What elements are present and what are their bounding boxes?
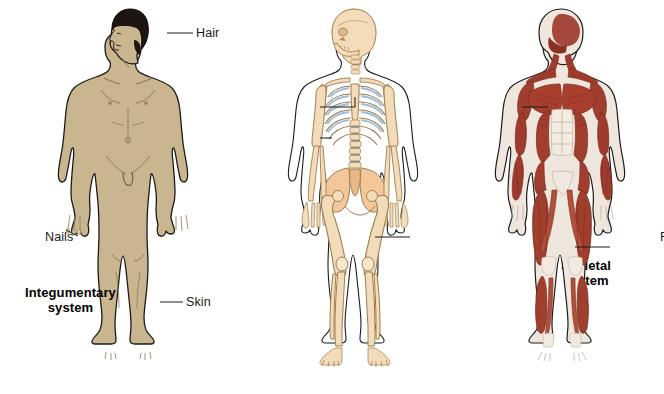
- eye-socket: [339, 28, 348, 36]
- patella-left: [336, 257, 348, 271]
- muscular-body-art: [495, 9, 624, 361]
- gastrocnemius-right: [577, 276, 588, 333]
- figure-muscular-system: Muscle Tendon Muscular system: [460, 0, 664, 394]
- achilles-tendon-right: [570, 333, 581, 347]
- femoral-head-left: [333, 191, 344, 202]
- diagram-canvas: Hair Nails Skin Integumentary system: [0, 0, 664, 394]
- toes-left: [105, 352, 116, 360]
- patella-right: [362, 257, 374, 271]
- figure-skeletal-system: Sternum Humerus Femur Skeletal system: [250, 0, 460, 394]
- hand-right-detail: [176, 215, 188, 231]
- foot-bones-right: [368, 348, 390, 367]
- nipple-right: [144, 101, 148, 105]
- label-hair: Hair: [196, 27, 219, 40]
- foot-tendons-right: [574, 352, 586, 361]
- nipple-left: [108, 101, 112, 105]
- foot-bones-left: [320, 348, 342, 367]
- skeletal-body-art: [288, 9, 417, 367]
- toes-right: [140, 352, 151, 360]
- figure-integumentary-system: Hair Nails Skin Integumentary system: [0, 0, 250, 394]
- foot-tendons-left: [538, 352, 550, 361]
- label-nails: Nails: [45, 231, 73, 244]
- achilles-tendon-left: [543, 333, 554, 347]
- caption-integumentary-system: Integumentary system: [8, 285, 133, 316]
- femoral-head-right: [367, 191, 378, 202]
- label-skin: Skin: [186, 296, 211, 309]
